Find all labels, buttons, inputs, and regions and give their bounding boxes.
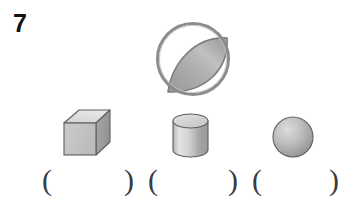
cube-figure — [64, 110, 110, 155]
cube-front-face — [64, 123, 96, 155]
sphere-figure — [273, 117, 313, 157]
answer-blank-1-close-paren: ) — [124, 163, 134, 197]
circle-with-shaded-lens — [158, 24, 229, 95]
answer-blank-2-close-paren: ) — [228, 163, 238, 197]
answer-blanks-row: ( ) ( ) ( ) — [0, 163, 359, 199]
cylinder-top-face — [173, 114, 208, 128]
sphere-body — [273, 117, 313, 157]
worksheet-page: 7 — [0, 0, 359, 205]
answer-blank-2-open-paren: ( — [148, 163, 158, 197]
answer-blank-1-open-paren: ( — [42, 163, 52, 197]
answer-blank-3-close-paren: ) — [329, 163, 339, 197]
cylinder-figure — [173, 114, 208, 157]
answer-blank-3-open-paren: ( — [252, 163, 262, 197]
